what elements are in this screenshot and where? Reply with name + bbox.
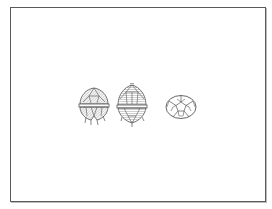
dinoflagellate-ventral-drawing [77, 86, 111, 126]
dinoflagellate-specimen-3 [165, 94, 197, 120]
dinoflagellate-specimen-1 [77, 86, 111, 126]
dinoflagellate-apical-drawing [165, 94, 197, 120]
dinoflagellate-dorsal-drawing [116, 83, 148, 127]
illustration-frame [10, 7, 266, 202]
dinoflagellate-specimen-2 [116, 83, 148, 127]
